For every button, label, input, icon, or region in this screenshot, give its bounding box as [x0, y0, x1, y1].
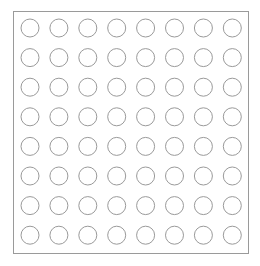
grid-circle: [108, 19, 126, 37]
grid-circle: [166, 49, 184, 67]
grid-circle: [223, 167, 241, 185]
grid-circle: [166, 137, 184, 155]
grid-circle: [50, 226, 68, 244]
grid-circle: [79, 108, 97, 126]
grid-circle: [223, 137, 241, 155]
grid-circle: [194, 226, 212, 244]
grid-circle: [21, 226, 39, 244]
grid-circle: [21, 108, 39, 126]
grid-circle: [21, 19, 39, 37]
grid-circle: [223, 197, 241, 215]
grid-circle: [50, 197, 68, 215]
grid-circle: [223, 78, 241, 96]
grid-circle: [166, 19, 184, 37]
grid-circle: [79, 137, 97, 155]
grid-circle: [79, 197, 97, 215]
grid-circle: [21, 197, 39, 215]
grid-circle: [194, 137, 212, 155]
grid-circle: [223, 226, 241, 244]
grid-circle: [21, 167, 39, 185]
grid-circle: [108, 108, 126, 126]
grid-frame: [14, 12, 249, 254]
circle-grid: [21, 19, 241, 244]
grid-circle: [137, 49, 155, 67]
grid-circle: [166, 108, 184, 126]
grid-circle: [194, 49, 212, 67]
grid-circle: [108, 226, 126, 244]
grid-circle: [194, 78, 212, 96]
grid-circle: [223, 49, 241, 67]
grid-circle: [50, 19, 68, 37]
grid-circle: [137, 137, 155, 155]
grid-circle: [166, 167, 184, 185]
grid-circle: [194, 167, 212, 185]
grid-circle: [108, 167, 126, 185]
grid-circle: [166, 197, 184, 215]
grid-circle: [108, 78, 126, 96]
grid-circle: [137, 167, 155, 185]
grid-circle: [21, 78, 39, 96]
grid-circle: [137, 226, 155, 244]
grid-circle: [223, 108, 241, 126]
grid-circle: [194, 19, 212, 37]
grid-circle: [137, 108, 155, 126]
grid-circle: [50, 167, 68, 185]
grid-circle: [79, 167, 97, 185]
grid-circle: [166, 226, 184, 244]
grid-circle: [50, 49, 68, 67]
grid-circle: [21, 49, 39, 67]
grid-circle: [194, 108, 212, 126]
grid-circle: [21, 137, 39, 155]
circle-grid-diagram: [0, 0, 260, 266]
grid-circle: [50, 78, 68, 96]
grid-circle: [79, 226, 97, 244]
grid-circle: [223, 19, 241, 37]
grid-circle: [50, 137, 68, 155]
grid-circle: [108, 137, 126, 155]
grid-circle: [137, 78, 155, 96]
grid-circle: [79, 78, 97, 96]
grid-circle: [108, 197, 126, 215]
grid-circle: [166, 78, 184, 96]
grid-circle: [50, 108, 68, 126]
grid-circle: [108, 49, 126, 67]
canvas-root: [0, 0, 260, 266]
grid-circle: [137, 19, 155, 37]
grid-circle: [137, 197, 155, 215]
grid-circle: [194, 197, 212, 215]
grid-circle: [79, 19, 97, 37]
grid-circle: [79, 49, 97, 67]
